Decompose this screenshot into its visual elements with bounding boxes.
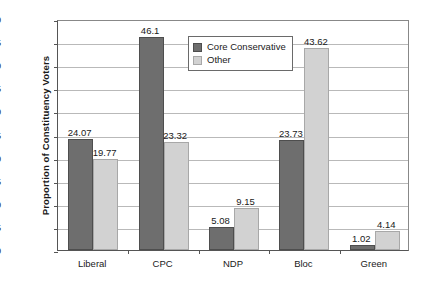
legend-label-other: Other: [207, 55, 231, 65]
bar-value-label: 1.02: [341, 234, 381, 244]
bar-value-label: 4.14: [366, 220, 406, 230]
bar-value-label: 5.08: [201, 216, 241, 226]
y-axis-tick-label: 10: [0, 200, 1, 210]
y-axis-tick-mark: [54, 183, 58, 184]
legend-label-core-conservative: Core Conservative: [207, 42, 286, 52]
bar-value-label: 24.07: [60, 128, 100, 138]
legend-item-other: Other: [193, 54, 286, 66]
y-axis-tick-label: 50: [0, 15, 1, 25]
y-axis-tick-mark: [54, 137, 58, 138]
bar: [350, 245, 375, 250]
y-axis-tick-label: 5: [0, 223, 1, 233]
bar: [234, 208, 259, 250]
bar: [304, 48, 329, 250]
bar-value-label: 19.77: [85, 148, 125, 158]
x-axis-category-label: CPC: [127, 258, 197, 269]
x-axis-tick-mark: [199, 250, 200, 254]
y-axis-tick-mark: [54, 252, 58, 253]
x-axis-tick-mark: [128, 250, 129, 254]
gridline: [58, 113, 408, 114]
bar-value-label: 23.32: [155, 131, 195, 141]
y-axis-tick-mark: [54, 113, 58, 114]
x-axis-category-label: Bloc: [268, 258, 338, 269]
legend-item-core-conservative: Core Conservative: [193, 41, 286, 53]
x-axis-tick-mark: [340, 250, 341, 254]
y-axis-tick-label: 45: [0, 38, 1, 48]
bar-value-label: 23.73: [271, 129, 311, 139]
legend: Core Conservative Other: [188, 36, 293, 71]
x-axis-category-label: Green: [339, 258, 409, 269]
y-axis-tick-label: 40: [0, 61, 1, 71]
bar-chart: Proportion of Constituency Voters 051015…: [0, 0, 426, 282]
y-axis-tick-mark: [54, 206, 58, 207]
y-axis-title: Proportion of Constituency Voters: [40, 21, 51, 251]
bar-value-label: 46.1: [130, 26, 170, 36]
bar: [93, 159, 118, 250]
legend-swatch-icon-core-conservative: [193, 43, 202, 52]
y-axis-tick-label: 0: [0, 246, 1, 256]
y-axis-tick-mark: [54, 160, 58, 161]
y-axis-tick-mark: [54, 67, 58, 68]
y-axis-tick-label: 20: [0, 154, 1, 164]
bar: [279, 140, 304, 250]
x-axis-tick-mark: [269, 250, 270, 254]
bar-value-label: 43.62: [296, 37, 336, 47]
y-axis-tick-mark: [54, 21, 58, 22]
y-axis-tick-mark: [54, 90, 58, 91]
bar-value-label: 9.15: [226, 197, 266, 207]
x-axis-category-label: NDP: [198, 258, 268, 269]
y-axis-tick-label: 25: [0, 131, 1, 141]
y-axis-tick-mark: [54, 44, 58, 45]
gridline: [58, 90, 408, 91]
y-axis-tick-mark: [54, 229, 58, 230]
x-axis-category-label: Liberal: [57, 258, 127, 269]
bar: [139, 37, 164, 250]
bar: [164, 142, 189, 250]
y-axis-tick-label: 35: [0, 85, 1, 95]
gridline: [58, 137, 408, 138]
bar: [209, 227, 234, 250]
y-axis-tick-label: 30: [0, 108, 1, 118]
y-axis-tick-label: 15: [0, 177, 1, 187]
legend-swatch-icon-other: [193, 56, 202, 65]
